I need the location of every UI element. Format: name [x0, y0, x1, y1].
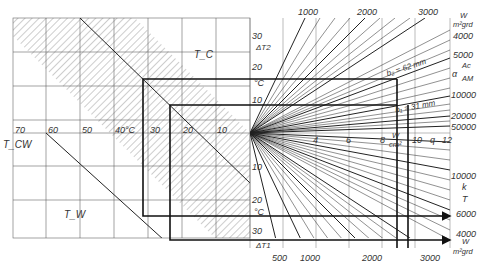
left-tick-70: 70 [15, 126, 25, 135]
upper-tick-10: 10 [252, 96, 262, 105]
lower-tick-20: 20 [252, 196, 262, 205]
label-tw: T_W [64, 210, 85, 220]
top-tick-3000: 3000 [418, 8, 438, 17]
bottom-tick-1000: 1000 [300, 254, 320, 263]
delta-t2-label: ΔT2 [256, 44, 271, 52]
right-tick-6000: 6000 [456, 210, 476, 219]
fan-lines-upper [250, 18, 450, 133]
left-tick-20: 20 [183, 126, 193, 135]
upper-tick-30: 30 [252, 32, 262, 41]
q-tick-10: 10 [412, 136, 422, 145]
q-tick-4: 4 [313, 136, 318, 145]
right-tick-4000: 4000 [453, 32, 473, 41]
right-tick-20000: 20000 [451, 112, 476, 121]
top-unit-num: W [460, 12, 467, 20]
right-grid [250, 18, 450, 248]
q-tick-6: 6 [346, 136, 351, 145]
right-tick-5000: 5000 [453, 51, 473, 60]
ratio-den: AM [462, 75, 473, 83]
q-tick-12: 12 [442, 136, 452, 145]
right-tick-10000: 10000 [451, 91, 476, 100]
delta-t1-label: ΔT1 [256, 242, 271, 250]
label-tcw: T_CW [3, 140, 31, 150]
ratio-num: Ac [462, 62, 471, 70]
right-tick-10000-lower: 10000 [451, 172, 476, 181]
bottom-unit-den: m²grd [453, 248, 473, 256]
top-unit-den: m²grd [453, 21, 473, 29]
k-label-num: k [462, 183, 467, 192]
left-tick-30: 30 [150, 126, 160, 135]
top-tick-2000: 2000 [357, 8, 377, 17]
bottom-tick-2000: 2000 [362, 254, 382, 263]
q-unit-num: W [392, 132, 399, 140]
q-tick-8: 8 [380, 136, 385, 145]
bottom-tick-500: 500 [272, 254, 287, 263]
alpha-label: α [452, 70, 457, 79]
fan-lines-lower [250, 133, 450, 248]
k-label-den: T [462, 195, 468, 204]
left-tick-40: 40°C [115, 126, 135, 135]
lower-tick-30: 30 [252, 227, 262, 236]
top-tick-1000: 1000 [298, 8, 318, 17]
left-tick-50: 50 [82, 126, 92, 135]
q-tick-q: q [430, 136, 435, 145]
q-unit-den: cm² [389, 141, 402, 149]
upper-unit: °C [254, 79, 264, 88]
lower-tick-10: 10 [252, 163, 262, 172]
bottom-unit-num: W [462, 238, 469, 246]
lower-unit: °C [254, 208, 264, 217]
upper-tick-20: 20 [252, 63, 262, 72]
left-tick-10: 10 [217, 126, 227, 135]
bottom-tick-3000: 3000 [420, 254, 440, 263]
label-tc: T_C [194, 50, 213, 60]
left-tick-60: 60 [48, 126, 58, 135]
right-tick-50000: 50000 [451, 123, 476, 132]
